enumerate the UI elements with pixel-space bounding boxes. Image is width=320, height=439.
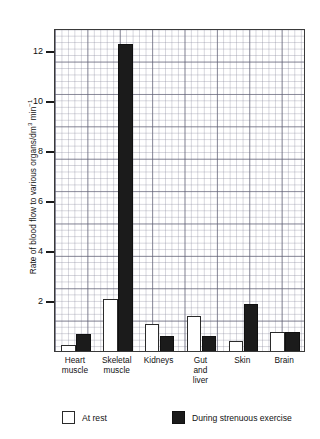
y-axis-tick-label: 10	[3, 97, 43, 106]
bar-at-rest	[187, 316, 202, 351]
bar-at-rest	[145, 324, 160, 352]
legend-item[interactable]: At rest	[62, 411, 107, 424]
bar-at-rest	[103, 299, 118, 352]
bar-at-rest	[270, 332, 285, 351]
legend-item[interactable]: During strenuous exercise	[172, 411, 292, 424]
legend-swatch-exercise	[172, 411, 185, 424]
y-axis-tick-label: 8	[3, 147, 43, 156]
bar-during-exercise	[76, 334, 91, 352]
y-axis-tick-label: 4	[3, 247, 43, 256]
bar-during-exercise	[160, 336, 175, 351]
y-axis-tick-label: 2	[3, 297, 43, 306]
legend-label: At rest	[82, 413, 107, 423]
x-axis-category-labels: Heart muscleSkeletal muscleKidneysGut an…	[54, 355, 305, 403]
bar-during-exercise	[118, 44, 133, 352]
x-axis-category-label: Heart muscle	[54, 355, 96, 375]
chart-figure: Rate of blood flow to various organs/dm3…	[0, 0, 320, 439]
y-axis-tick-label: 6	[3, 197, 43, 206]
chart-legend: At restDuring strenuous exercise	[62, 411, 312, 431]
bar-at-rest	[229, 341, 244, 351]
legend-label: During strenuous exercise	[192, 413, 292, 423]
bar-during-exercise	[285, 332, 300, 351]
plot-area	[54, 29, 305, 352]
bar-during-exercise	[202, 336, 217, 351]
bar-at-rest	[61, 345, 76, 351]
x-axis-category-label: Kidneys	[138, 355, 180, 365]
bar-during-exercise	[244, 304, 259, 352]
legend-swatch-rest	[62, 411, 75, 424]
x-axis-category-label: Skeletal muscle	[96, 355, 138, 375]
y-axis-label-sup-cubed: 3	[26, 123, 33, 127]
x-axis-category-label: Skin	[221, 355, 263, 365]
x-axis-category-label: Gut and liver	[180, 355, 222, 386]
y-axis-label-mid: min	[29, 107, 38, 123]
y-axis-tick-label: 12	[3, 47, 43, 56]
x-axis-category-label: Brain	[263, 355, 305, 365]
